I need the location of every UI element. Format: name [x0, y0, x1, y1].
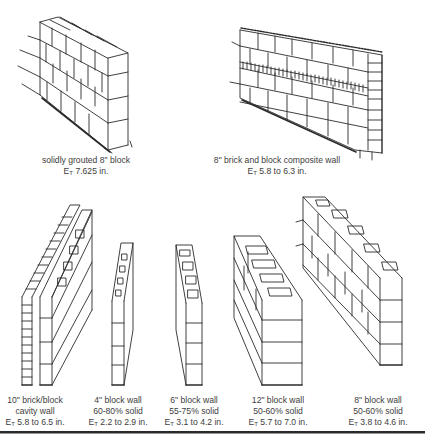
wall-name: 8" brick and block composite wall	[214, 155, 340, 166]
block-wall-6in-drawing	[176, 245, 202, 385]
bottom-divider-shadow	[0, 433, 425, 434]
block-wall-12in-drawing	[234, 236, 302, 385]
wall-name: 8" block wall	[348, 395, 407, 406]
label-brick-block-composite: 8" brick and block composite wall ET 5.8…	[214, 155, 340, 179]
wall-name: 4" block wall	[88, 395, 147, 406]
brick-block-composite-wall-drawing	[230, 28, 382, 160]
wall-solidity: 50-60% solid	[248, 406, 307, 417]
label-block-wall-8in: 8" block wall 50-60% solid ET 3.8 to 4.6…	[348, 395, 407, 430]
effective-thickness: ET 5.8 to 6.3 in.	[214, 166, 340, 179]
wall-name: 12" block wall	[248, 395, 307, 406]
label-solid-grouted-block: solidly grouted 8" block ET 7.625 in.	[42, 155, 130, 179]
effective-thickness: ET 3.8 to 4.6 in.	[348, 417, 407, 430]
wall-descriptor: cavity wall	[5, 406, 64, 417]
wall-name: solidly grouted 8" block	[42, 155, 130, 166]
effective-thickness: ET 5.7 to 7.0 in.	[248, 417, 307, 430]
wall-solidity: 55-75% solid	[164, 406, 223, 417]
wall-name: 10" brick/block	[5, 395, 64, 406]
wall-name: 6" block wall	[164, 395, 223, 406]
label-block-wall-4in: 4" block wall 60-80% solid ET 2.2 to 2.9…	[88, 395, 147, 430]
label-block-wall-12in: 12" block wall 50-60% solid ET 5.7 to 7.…	[248, 395, 307, 430]
effective-thickness: ET 3.1 to 4.2 in.	[164, 417, 223, 430]
solid-grouted-block-wall-drawing	[18, 17, 132, 153]
effective-thickness: ET 2.2 to 2.9 in.	[88, 417, 147, 430]
block-wall-8in-drawing	[296, 197, 402, 365]
wall-drawings	[0, 0, 425, 447]
wall-solidity: 60-80% solid	[88, 406, 147, 417]
label-block-wall-6in: 6" block wall 55-75% solid ET 3.1 to 4.2…	[164, 395, 223, 430]
cavity-wall-drawing	[22, 205, 92, 385]
effective-thickness: ET 5.8 to 6.5 in.	[5, 417, 64, 430]
label-cavity-wall: 10" brick/block cavity wall ET 5.8 to 6.…	[5, 395, 64, 430]
effective-thickness: ET 7.625 in.	[42, 166, 130, 179]
wall-solidity: 50-60% solid	[348, 406, 407, 417]
block-wall-4in-drawing	[112, 243, 133, 385]
